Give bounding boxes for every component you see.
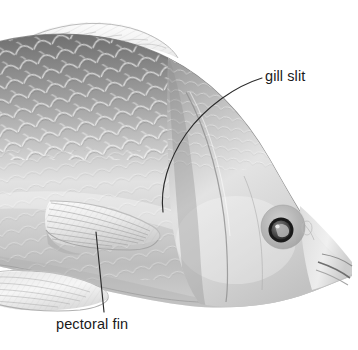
fish-illustration [0, 0, 358, 350]
label-gill-slit: gill slit [265, 68, 305, 84]
eye-glint [275, 224, 279, 228]
label-pectoral-fin: pectoral fin [56, 316, 128, 332]
fish-anatomy-figure: gill slit pectoral fin [0, 0, 358, 350]
